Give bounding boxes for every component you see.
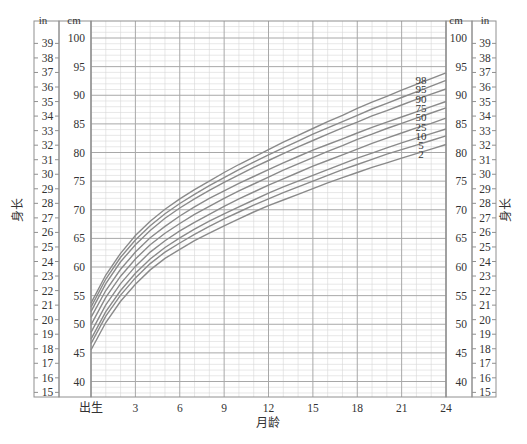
right-in-tick-label: 25 (479, 241, 491, 253)
right-in-tick-label: 34 (479, 110, 491, 122)
left-in-tick-label: 31 (42, 154, 54, 166)
x-tick-label: 24 (440, 402, 452, 414)
right-in-tick-label: 16 (479, 372, 491, 384)
left-cm-tick-label: 65 (74, 232, 86, 244)
right-in-tick-label: 35 (479, 96, 491, 108)
right-in-tick-label: 20 (479, 314, 491, 326)
right-cm-tick-label: 75 (456, 175, 468, 187)
x-tick-label: 21 (396, 402, 408, 414)
left-in-tick-label: 18 (42, 343, 54, 355)
right-cm-tick-label: 50 (456, 318, 468, 330)
left-cm-tick-label: 45 (74, 347, 86, 359)
percentile-label-2: 2 (418, 148, 424, 160)
left-cm-tick-label: 40 (74, 376, 86, 388)
right-cm-tick-label: 45 (456, 347, 468, 359)
left-in-tick-label: 15 (42, 386, 54, 398)
left-in-tick-label: 23 (42, 270, 54, 282)
right-in-tick-label: 31 (479, 154, 491, 166)
left-in-tick-label: 32 (42, 139, 54, 151)
left-in-tick-label: 33 (42, 125, 54, 137)
right-in-tick-label: 38 (479, 52, 491, 64)
growth-chart: 1516171819202122232425262728293031323334… (0, 0, 527, 444)
x-tick-labels: 出生3691215182124 (79, 401, 452, 415)
left-cm-tick-label: 50 (74, 318, 86, 330)
right-in-tick-label: 39 (479, 37, 491, 49)
x-tick-label: 18 (352, 402, 364, 414)
right-in-tick-label: 30 (479, 168, 491, 180)
left-in-tick-label: 16 (42, 372, 54, 384)
right-in-tick-label: 36 (479, 81, 491, 93)
left-in-tick-label: 36 (42, 81, 54, 93)
x-tick-label: 3 (133, 402, 139, 414)
right-in-tick-label: 21 (479, 299, 491, 311)
right-cm-tick-label: 85 (456, 118, 468, 130)
right-cm-tick-label: 40 (456, 376, 468, 388)
right-cm-tick-label: 60 (456, 261, 468, 273)
left-cm-tick-label: 75 (74, 175, 86, 187)
right-in-tick-label: 22 (479, 285, 491, 297)
percentile-labels: 9895907550251052 (416, 74, 428, 160)
right-in-tick-label: 33 (479, 125, 491, 137)
left-in-tick-label: 24 (42, 256, 54, 268)
x-axis-title: 月龄 (256, 416, 280, 430)
right-cm-tick-label: 100 (450, 32, 468, 44)
x-tick-label: 15 (307, 402, 319, 414)
left-cm-tick-label: 90 (74, 89, 86, 101)
right-y-axis-title: 身长 (498, 198, 513, 222)
left-in-tick-label: 22 (42, 285, 54, 297)
left-in-unit-label: in (39, 14, 48, 26)
left-cm-tick-label: 95 (74, 61, 86, 73)
left-in-tick-label: 34 (42, 110, 54, 122)
left-cm-tick-label: 55 (74, 290, 86, 302)
left-in-tick-label: 39 (42, 37, 54, 49)
right-cm-tick-label: 55 (456, 290, 468, 302)
left-cm-tick-label: 100 (68, 32, 86, 44)
left-in-tick-label: 28 (42, 197, 54, 209)
left-in-tick-label: 25 (42, 241, 54, 253)
right-in-tick-label: 28 (479, 197, 491, 209)
left-in-tick-label: 30 (42, 168, 54, 180)
left-in-tick-label: 38 (42, 52, 54, 64)
left-in-tick-label: 20 (42, 314, 54, 326)
left-in-tick-label: 21 (42, 299, 54, 311)
left-cm-tick-label: 70 (74, 204, 86, 216)
x-tick-label: 6 (177, 402, 183, 414)
right-cm-tick-label: 65 (456, 232, 468, 244)
left-cm-unit-label: cm (67, 14, 81, 26)
left-in-tick-label: 26 (42, 226, 54, 238)
right-cm-unit-label: cm (449, 14, 463, 26)
right-cm-tick-label: 95 (456, 61, 468, 73)
left-in-tick-label: 35 (42, 96, 54, 108)
major-grid (91, 21, 446, 397)
right-in-tick-label: 24 (479, 256, 491, 268)
right-in-tick-label: 19 (479, 328, 491, 340)
right-in-tick-label: 32 (479, 139, 491, 151)
left-cm-tick-label: 80 (74, 147, 86, 159)
left-in-tick-label: 27 (42, 212, 54, 224)
right-in-tick-label: 17 (479, 357, 491, 369)
x-tick-label: 出生 (79, 401, 103, 415)
x-tick-label: 9 (221, 402, 227, 414)
right-in-tick-label: 23 (479, 270, 491, 282)
right-in-tick-label: 37 (479, 66, 491, 78)
left-in-tick-label: 37 (42, 66, 54, 78)
left-y-axis-title: 身长 (10, 198, 25, 222)
right-cm-tick-label: 80 (456, 147, 468, 159)
left-cm-tick-label: 85 (74, 118, 86, 130)
left-cm-tick-label: 60 (74, 261, 86, 273)
left-in-tick-label: 17 (42, 357, 54, 369)
right-cm-tick-label: 70 (456, 204, 468, 216)
x-tick-label: 12 (263, 402, 275, 414)
right-in-tick-label: 18 (479, 343, 491, 355)
right-cm-tick-label: 90 (456, 89, 468, 101)
right-in-tick-label: 26 (479, 226, 491, 238)
right-in-tick-label: 29 (479, 183, 491, 195)
right-in-tick-label: 15 (479, 386, 491, 398)
right-in-tick-label: 27 (479, 212, 491, 224)
left-in-tick-label: 19 (42, 328, 54, 340)
left-in-tick-label: 29 (42, 183, 54, 195)
right-in-unit-label: in (481, 14, 490, 26)
